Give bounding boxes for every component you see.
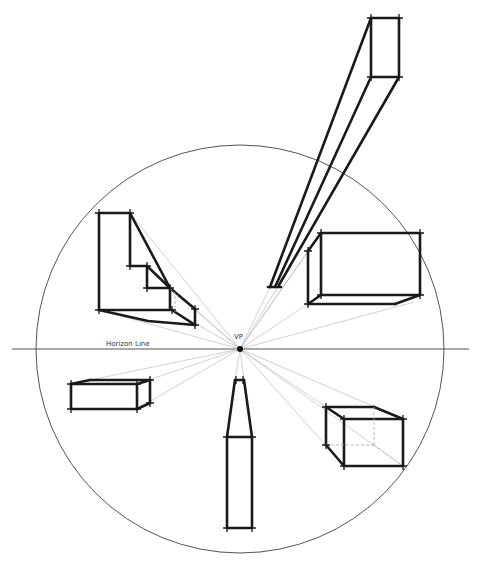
perspective-diagram: Horizon Line VP bbox=[0, 0, 481, 563]
vertex-markers bbox=[67, 14, 424, 532]
vanishing-point-dot bbox=[237, 346, 243, 352]
bottom-box bbox=[227, 376, 252, 528]
horizon-label: Horizon Line bbox=[106, 340, 150, 348]
vp-label: VP bbox=[234, 333, 243, 341]
cube bbox=[326, 407, 403, 466]
tall-box bbox=[268, 18, 399, 287]
right-box bbox=[308, 233, 420, 304]
